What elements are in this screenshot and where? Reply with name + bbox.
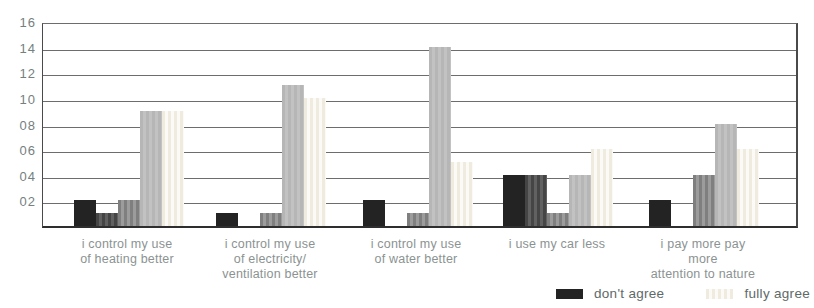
- bar-series3-group3: [407, 213, 429, 226]
- bar-series3-group4: [547, 213, 569, 226]
- category-label: i control my use of heating better: [80, 237, 174, 267]
- bar-series5-group5: [737, 149, 759, 226]
- bar-series5-group1: [162, 111, 184, 226]
- bar-series5-group3: [451, 162, 473, 226]
- gridline: [43, 101, 796, 102]
- bar-series4-group3: [429, 47, 451, 226]
- y-tick-label: 04: [0, 169, 36, 185]
- bar-series4-group1: [140, 111, 162, 226]
- bar-series1-group3: [363, 200, 385, 226]
- bar-series3-group2: [260, 213, 282, 226]
- legend-item: don't agree: [556, 286, 664, 301]
- category-label: i control my use of water better: [371, 237, 462, 267]
- bar-series5-group4: [591, 149, 613, 226]
- gridline: [43, 50, 796, 51]
- legend-swatch: [556, 289, 583, 299]
- y-tick-label: 02: [0, 194, 36, 210]
- bar-series3-group1: [118, 200, 140, 226]
- legend-label: fully agree: [744, 286, 810, 301]
- category-label: i pay more pay more attention to nature: [648, 237, 759, 282]
- y-tick-label: 12: [0, 66, 36, 82]
- bar-series1-group5: [649, 200, 671, 226]
- plot-area: [42, 23, 798, 228]
- bar-series1-group1: [74, 200, 96, 226]
- bar-series3-group5: [693, 175, 715, 226]
- bar-series2-group1: [96, 213, 118, 226]
- legend-item: fully agree: [706, 286, 810, 301]
- bar-series1-group4: [503, 175, 525, 226]
- y-tick-label: 14: [0, 41, 36, 57]
- y-tick-label: 08: [0, 118, 36, 134]
- y-tick-label: 16: [0, 15, 36, 31]
- bar-series4-group2: [282, 85, 304, 226]
- y-tick-label: 10: [0, 92, 36, 108]
- category-label: i use my car less: [509, 237, 605, 252]
- gridline: [43, 75, 796, 76]
- bar-series1-group2: [216, 213, 238, 226]
- legend-label: don't agree: [594, 286, 664, 301]
- bar-series2-group4: [525, 175, 547, 226]
- bar-series4-group5: [715, 124, 737, 227]
- legend-swatch: [706, 289, 733, 299]
- legend: don't agreefully agree: [556, 286, 810, 301]
- bar-series5-group2: [304, 98, 326, 226]
- y-tick-label: 06: [0, 143, 36, 159]
- likert-bar-chart: 1614121008060402 i control my use of hea…: [0, 0, 814, 308]
- category-label: i control my use of electricity/ ventila…: [222, 237, 317, 282]
- bar-series4-group4: [569, 175, 591, 226]
